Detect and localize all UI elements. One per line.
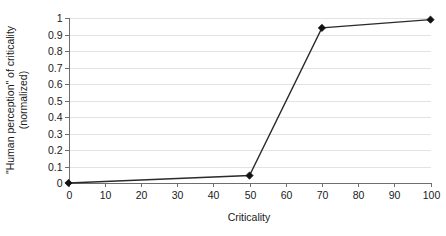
y-tick-label: 0.4 (48, 111, 63, 123)
x-tick-label: 60 (281, 189, 293, 201)
y-tick-label: 0.7 (48, 62, 63, 74)
x-tick-label: 50 (245, 189, 257, 201)
chart-figure: 0102030405060708090100 00.10.20.30.40.50… (0, 0, 446, 236)
x-axis-title: Criticality (228, 211, 271, 223)
x-axis-title-text: Criticality (228, 211, 271, 223)
x-tick-label: 100 (423, 189, 441, 201)
x-tick-label: 20 (136, 189, 148, 201)
y-tick-label: 0 (57, 177, 63, 189)
y-tick-label: 1 (57, 12, 63, 24)
y-tick-label: 0.5 (48, 95, 63, 107)
y-tick-label: 0.8 (48, 45, 63, 57)
x-tick-label: 0 (67, 189, 73, 201)
y-tick-label: 0.2 (48, 144, 63, 156)
x-tick-label: 70 (317, 189, 329, 201)
y-axis-tick-labels: 00.10.20.30.40.50.60.70.80.91 (48, 12, 63, 189)
y-tick-label: 0.1 (48, 161, 63, 173)
y-tick-label: 0.9 (48, 29, 63, 41)
x-tick-label: 10 (100, 189, 112, 201)
y-axis-title-line2: (normalized) (17, 71, 29, 129)
line-chart: 0102030405060708090100 00.10.20.30.40.50… (0, 0, 446, 236)
x-tick-label: 90 (389, 189, 401, 201)
x-tick-label: 30 (172, 189, 184, 201)
x-tick-label: 80 (353, 189, 365, 201)
y-tick-label: 0.3 (48, 128, 63, 140)
y-axis-title-line1: "Human perception" of criticality (4, 25, 16, 174)
y-tick-label: 0.6 (48, 78, 63, 90)
x-tick-label: 40 (208, 189, 220, 201)
